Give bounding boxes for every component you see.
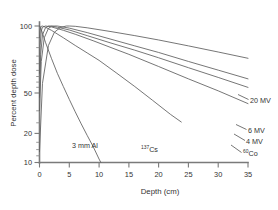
series-label-137cs: 137Cs	[141, 145, 158, 154]
x-tick-label: 0	[37, 170, 41, 179]
y-tick-label: 10	[24, 158, 32, 167]
x-tick-label: 35	[244, 170, 252, 179]
x-axis-title: Depth (cm)	[141, 187, 180, 196]
series-label-6mv: 6 MV	[248, 126, 265, 135]
curve-4-mv	[40, 26, 249, 97]
series-label-137cs-elem: Cs	[149, 145, 158, 154]
leader-4mv	[234, 134, 245, 141]
leader-20mv	[238, 95, 249, 100]
x-tick-label: 25	[184, 170, 192, 179]
x-tick-label: 30	[214, 170, 222, 179]
y-axis-tick-labels: 100 50 20 10	[20, 22, 32, 168]
y-tick-label: 50	[24, 89, 32, 98]
curve-20-mv	[40, 26, 249, 152]
leader-60co	[231, 145, 242, 153]
y-axis-title: Percent depth dose	[9, 59, 18, 127]
series-label-60co-elem: Co	[248, 149, 257, 158]
x-tick-label: 10	[95, 170, 103, 179]
y-tick-label: 20	[24, 129, 32, 138]
x-tick-label: 20	[154, 170, 162, 179]
series-label-3mmal: 3 mm Al	[72, 141, 98, 150]
curve-series-group	[40, 26, 249, 163]
series-label-20mv: 20 MV	[250, 96, 271, 105]
x-tick-label: 5	[67, 170, 71, 179]
series-label-137cs-sup: 137	[141, 145, 149, 150]
x-tick-label: 15	[125, 170, 133, 179]
y-tick-label: 100	[20, 22, 32, 31]
curve-6-mv	[40, 26, 249, 111]
series-label-60co: 60Co	[243, 149, 258, 158]
chart-container: 100 50 20 10 0 5 10 15 20 25 30 35	[0, 0, 278, 210]
depth-dose-chart: 100 50 20 10 0 5 10 15 20 25 30 35	[0, 0, 278, 210]
leader-6mv	[236, 125, 247, 130]
x-axis-tick-labels: 0 5 10 15 20 25 30 35	[37, 170, 252, 179]
series-label-4mv: 4 MV	[246, 137, 263, 146]
